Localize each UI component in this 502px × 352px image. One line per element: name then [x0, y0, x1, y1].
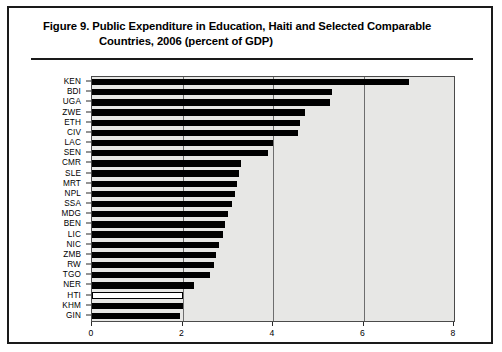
x-label-8: 8: [451, 328, 456, 338]
x-label-4: 4: [270, 328, 275, 338]
plot-area: [91, 76, 455, 322]
x-tick-8: [453, 322, 454, 326]
bar-ssa: [92, 201, 232, 207]
bar-sen: [92, 150, 268, 156]
y-label-uga: UGA: [63, 97, 81, 106]
bar-mrt: [92, 181, 237, 187]
bar-row: [92, 282, 454, 288]
bar-ken: [92, 79, 409, 85]
y-label-lac: LAC: [65, 138, 81, 147]
bar-row: [92, 109, 454, 115]
bar-zmb: [92, 252, 216, 258]
bar-row: [92, 221, 454, 227]
bar-gin: [92, 313, 180, 319]
bar-row: [92, 89, 454, 95]
bar-npl: [92, 191, 235, 197]
x-label-0: 0: [89, 328, 94, 338]
bar-khm: [92, 303, 183, 309]
bar-row: [92, 272, 454, 278]
bar-row: [92, 140, 454, 146]
bar-row: [92, 242, 454, 248]
y-label-ner: NER: [63, 280, 81, 289]
title-divider: [31, 58, 473, 60]
y-label-sen: SEN: [64, 148, 81, 157]
y-label-sle: SLE: [65, 168, 81, 177]
y-label-hti: HTI: [67, 290, 81, 299]
bar-tgo: [92, 272, 210, 278]
y-label-tgo: TGO: [63, 270, 81, 279]
bar-rw: [92, 262, 214, 268]
bar-nic: [92, 242, 219, 248]
x-tick-2: [182, 322, 183, 326]
bar-row: [92, 99, 454, 105]
figure-title-line-1: Figure 9. Public Expenditure in Educatio…: [31, 19, 469, 34]
bar-row: [92, 262, 454, 268]
bar-row: [92, 120, 454, 126]
y-label-zmb: ZMB: [63, 249, 81, 258]
figure-frame: Figure 9. Public Expenditure in Educatio…: [7, 6, 493, 344]
y-label-ken: KEN: [64, 77, 81, 86]
x-label-6: 6: [360, 328, 365, 338]
bar-mdg: [92, 211, 228, 217]
bar-row: [92, 252, 454, 258]
bar-series: [92, 77, 454, 321]
bar-row: [92, 211, 454, 217]
bar-lac: [92, 140, 273, 146]
x-tick-4: [272, 322, 273, 326]
y-label-gin: GIN: [66, 310, 81, 319]
bar-row: [92, 130, 454, 136]
y-label-rw: RW: [67, 260, 81, 269]
bar-row: [92, 292, 454, 298]
y-label-npl: NPL: [65, 188, 81, 197]
x-label-2: 2: [179, 328, 184, 338]
bar-row: [92, 191, 454, 197]
bar-row: [92, 303, 454, 309]
y-label-mrt: MRT: [63, 178, 81, 187]
y-label-khm: KHM: [62, 300, 81, 309]
figure-title-block: Figure 9. Public Expenditure in Educatio…: [9, 8, 491, 49]
y-axis-category-labels: KENBDIUGAZWEETHCIVLACSENCMRSLEMRTNPLSSAM…: [9, 76, 87, 320]
y-label-lic: LIC: [68, 229, 81, 238]
y-label-nic: NIC: [66, 239, 81, 248]
bar-row: [92, 201, 454, 207]
chart-container: KENBDIUGAZWEETHCIVLACSENCMRSLEMRTNPLSSAM…: [9, 64, 495, 344]
bar-eth: [92, 120, 300, 126]
bar-cmr: [92, 160, 241, 166]
bar-row: [92, 160, 454, 166]
y-label-mdg: MDG: [61, 209, 81, 218]
y-label-eth: ETH: [64, 117, 81, 126]
y-label-cmr: CMR: [62, 158, 81, 167]
bar-zwe: [92, 109, 305, 115]
bar-bdi: [92, 89, 332, 95]
bar-row: [92, 170, 454, 176]
bar-row: [92, 231, 454, 237]
x-tick-0: [91, 322, 92, 326]
bar-lic: [92, 231, 223, 237]
y-label-zwe: ZWE: [62, 107, 81, 116]
bar-hti: [92, 292, 183, 298]
bar-row: [92, 79, 454, 85]
bar-civ: [92, 130, 298, 136]
bar-ner: [92, 282, 194, 288]
bar-row: [92, 150, 454, 156]
y-label-ssa: SSA: [64, 199, 81, 208]
x-tick-6: [363, 322, 364, 326]
y-label-bdi: BDI: [67, 87, 81, 96]
y-label-ben: BEN: [64, 219, 81, 228]
bar-row: [92, 181, 454, 187]
x-axis: 02468: [91, 322, 455, 344]
bar-sle: [92, 170, 239, 176]
bar-row: [92, 313, 454, 319]
bar-ben: [92, 221, 225, 227]
figure-title-line-2: Countries, 2006 (percent of GDP): [31, 34, 469, 49]
y-label-civ: CIV: [67, 127, 81, 136]
bar-uga: [92, 99, 330, 105]
